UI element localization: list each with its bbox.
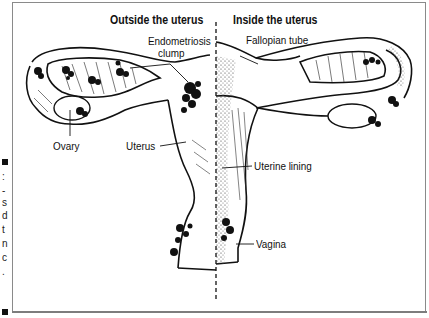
label-endometriosis-clump: clump — [158, 47, 184, 59]
uterus-illustration — [0, 0, 429, 318]
label-vagina: Vagina — [256, 238, 286, 250]
label-ovary: Ovary — [53, 140, 79, 152]
right-ovary — [328, 104, 376, 128]
left-fallopian-tube — [27, 48, 210, 125]
right-fallopian-tube — [256, 38, 412, 108]
header-outside-uterus: Outside the uterus — [110, 13, 203, 27]
label-endometriosis: Endometriosis — [148, 35, 211, 47]
endometriosis-spots-right — [221, 57, 399, 241]
label-uterus: Uterus — [126, 140, 155, 152]
left-uterus-body — [168, 100, 216, 270]
header-inside-uterus: Inside the uterus — [233, 13, 318, 27]
label-uterine-lining: Uterine lining — [254, 160, 312, 172]
uterine-wall-stipple — [216, 56, 236, 264]
label-fallopian-tube: Fallopian tube — [246, 34, 308, 46]
